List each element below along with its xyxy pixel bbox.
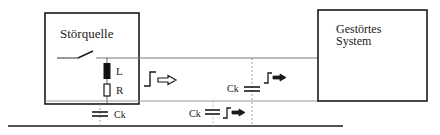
target-label-line2: System bbox=[336, 34, 372, 48]
capacitor-label-middle: Ck bbox=[189, 108, 201, 119]
capacitor-icon bbox=[244, 87, 260, 91]
inductor-label: L bbox=[116, 65, 123, 77]
source-label: Störquelle bbox=[60, 26, 114, 41]
capacitor-label-left: Ck bbox=[114, 109, 126, 120]
capacitor-icon bbox=[205, 110, 220, 114]
switch-icon bbox=[78, 51, 93, 58]
step-pulse-arrow-icon bbox=[264, 73, 286, 83]
step-pulse-arrow-icon bbox=[144, 72, 176, 86]
step-pulse-arrow-icon bbox=[223, 108, 245, 118]
resistor-icon bbox=[104, 84, 110, 96]
capacitor-label-line: Ck bbox=[227, 83, 239, 94]
resistor-label: R bbox=[116, 84, 124, 96]
inductor-icon bbox=[104, 63, 111, 79]
coupling-diagram: Störquelle L R Ck Ck Ck bbox=[0, 0, 440, 135]
